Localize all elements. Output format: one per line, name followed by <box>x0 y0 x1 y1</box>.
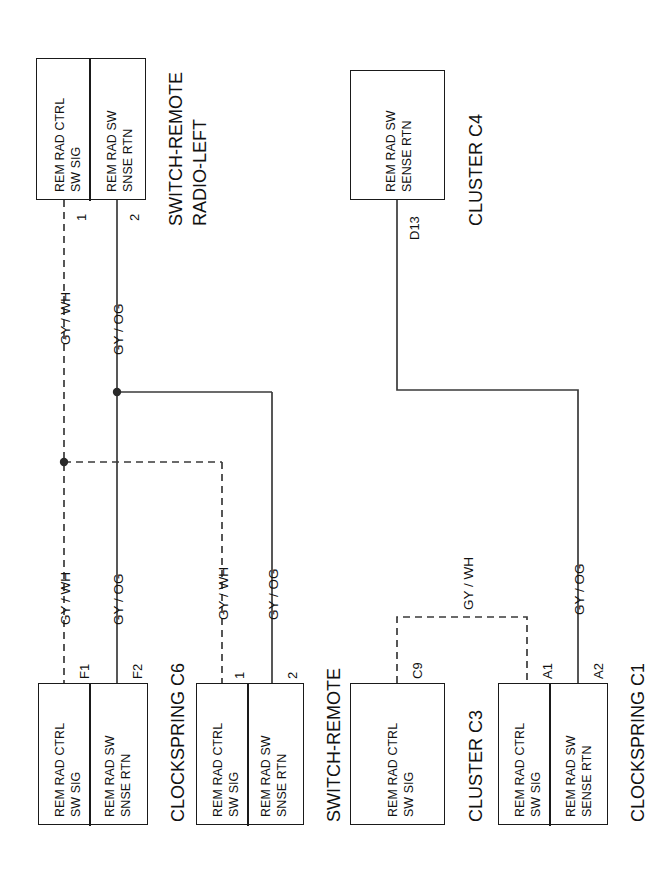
wire-gy-og-cluster-c4-run <box>397 200 578 683</box>
wire-label-gy-og-right-switch: GY / OG <box>266 568 281 620</box>
pin-label-c6-f2: F2 <box>130 664 145 679</box>
terminal-label-cluster-c4-line2: SENSE RTN <box>400 120 414 192</box>
terminal-label-c6-f1-line1: REM RAD CTRL <box>53 723 67 817</box>
wiring-diagram: REM RAD CTRL SW SIG REM RAD SW SNSE RTN … <box>0 0 671 879</box>
component-name-clockspring-c6: CLOCKSPRING C6 <box>168 663 189 822</box>
wire-label-gy-og-left-upper: GY / OG <box>111 303 126 355</box>
terminal-label-cluster-c3-line2: SW SIG <box>402 772 416 817</box>
pin-label-left-switch-1: 1 <box>74 214 89 221</box>
wire-label-gy-wh-right-switch: GY / WH <box>216 567 231 620</box>
terminal-label-right-switch-2-line1: REM RAD SW <box>259 735 273 817</box>
wire-label-gy-og-clockspring-c1: GY / OG <box>572 563 587 615</box>
terminal-label-c6-f1-line2: SW SIG <box>69 772 83 817</box>
component-name-switch-remote-radio-right-line1: SWITCH-REMOTE <box>324 668 345 822</box>
terminal-label-right-switch-1-line1: REM RAD CTRL <box>211 723 225 817</box>
terminal-label-cluster-c3-line1: REM RAD CTRL <box>386 723 400 817</box>
pin-label-right-switch-2: 2 <box>285 672 300 679</box>
component-name-cluster-c4: CLUSTER C4 <box>466 114 487 226</box>
terminal-label-left-switch-1-line1: REM RAD CTRL <box>53 98 67 192</box>
terminal-label-c1-a2-line1: REM RAD SW <box>564 735 578 817</box>
wire-label-gy-wh-left-lower: GY / WH <box>58 572 73 625</box>
pin-label-c1-a2: A2 <box>591 663 606 679</box>
component-name-switch-remote-radio-left-line1: SWITCH-REMOTE <box>166 72 187 226</box>
terminal-label-left-switch-2-line1: REM RAD SW <box>105 110 119 192</box>
pin-label-c1-a1: A1 <box>540 663 555 679</box>
junction-dot-gy-og <box>113 388 121 396</box>
terminal-label-c1-a1-line2: SW SIG <box>529 772 543 817</box>
pin-label-c6-f1: F1 <box>77 664 92 679</box>
component-name-switch-remote-radio-left-line2: RADIO-LEFT <box>190 119 211 226</box>
component-name-clockspring-c1: CLOCKSPRING C1 <box>628 663 649 822</box>
terminal-label-cluster-c4-line1: REM RAD SW <box>384 110 398 192</box>
terminal-label-right-switch-1-line2: SW SIG <box>227 772 241 817</box>
pin-label-cluster-c4-d13: D13 <box>407 216 422 240</box>
terminal-label-c6-f2-line1: REM RAD SW <box>103 735 117 817</box>
terminal-label-left-switch-1-line2: SW SIG <box>69 147 83 192</box>
junction-dot-gy-wh <box>60 458 68 466</box>
terminal-label-left-switch-2-line2: SNSE RTN <box>121 129 135 192</box>
pin-label-left-switch-2: 2 <box>127 214 142 221</box>
terminal-label-c1-a1-line1: REM RAD CTRL <box>513 723 527 817</box>
pin-label-right-switch-1: 1 <box>232 672 247 679</box>
wire-label-gy-wh-cluster-c3: GY / WH <box>461 557 476 610</box>
pin-label-cluster-c3-c9: C9 <box>410 662 425 679</box>
terminal-label-c6-f2-line2: SNSE RTN <box>119 754 133 817</box>
terminal-label-c1-a2-line2: SENSE RTN <box>580 745 594 817</box>
wire-label-gy-og-left-lower: GY / OG <box>111 573 126 625</box>
wire-label-gy-wh-left-upper: GY / WH <box>58 292 73 345</box>
component-name-cluster-c3: CLUSTER C3 <box>466 710 487 822</box>
terminal-label-right-switch-2-line2: SNSE RTN <box>275 754 289 817</box>
